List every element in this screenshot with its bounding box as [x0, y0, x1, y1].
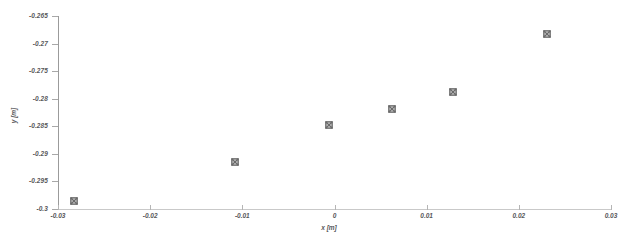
x-tick-label: -0.02 — [143, 212, 158, 219]
y-tick-label: -0.285 — [0, 122, 48, 129]
y-tick-mark — [52, 126, 58, 127]
x-tick-mark — [611, 205, 612, 210]
x-tick-mark — [242, 205, 243, 210]
x-tick-label: 0.03 — [605, 212, 618, 219]
y-tick-label: -0.275 — [0, 67, 48, 74]
x-tick-mark — [335, 205, 336, 210]
y-tick-label: -0.3 — [0, 205, 48, 212]
y-tick-mark — [52, 16, 58, 17]
x-axis-label: x [m] — [321, 224, 337, 231]
x-tick-label: -0.03 — [51, 212, 66, 219]
x-tick-mark — [150, 205, 151, 210]
x-tick-mark — [58, 205, 59, 210]
x-tick-label: 0 — [333, 212, 337, 219]
scatter-plot-figure: -0.3-0.295-0.29-0.285-0.28-0.275-0.27-0.… — [0, 0, 642, 242]
x-tick-label: 0.02 — [513, 212, 526, 219]
x-tick-label: -0.01 — [235, 212, 250, 219]
y-axis-label: y [m] — [10, 108, 17, 124]
x-tick-label: 0.01 — [420, 212, 433, 219]
y-tick-mark — [52, 181, 58, 182]
y-tick-mark — [52, 99, 58, 100]
y-tick-mark — [52, 71, 58, 72]
y-tick-label: -0.27 — [0, 40, 48, 47]
y-tick-mark — [52, 44, 58, 45]
y-tick-label: -0.295 — [0, 177, 48, 184]
y-tick-label: -0.265 — [0, 12, 48, 19]
y-axis-line — [58, 16, 59, 209]
y-tick-label: -0.28 — [0, 95, 48, 102]
y-tick-label: -0.29 — [0, 150, 48, 157]
x-tick-mark — [427, 205, 428, 210]
x-tick-mark — [519, 205, 520, 210]
plot-area — [58, 16, 611, 209]
y-tick-mark — [52, 154, 58, 155]
